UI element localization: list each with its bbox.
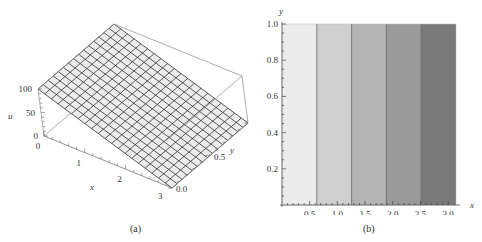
y-tick-label: 1.0 (267, 19, 279, 29)
x-tick-label: 3.0 (443, 209, 455, 215)
u-axis-label: u (8, 111, 13, 121)
x-tick-label: 3 (158, 191, 163, 201)
surface-mesh (38, 24, 248, 188)
u-tick-label: 100 (19, 84, 33, 94)
contour-plot: 0.51.01.52.02.53.00.20.40.60.81.0xy (250, 0, 482, 215)
y-tick-label: 0.4 (267, 128, 279, 138)
x-tick-label: 2.0 (387, 209, 399, 215)
y-tick-label: 0.6 (267, 91, 279, 101)
contour-band (352, 24, 387, 205)
x-tick-label: 1.0 (332, 209, 344, 215)
y-tick-label: 0.0 (176, 184, 188, 194)
x-tick-label: 0 (36, 141, 41, 151)
x-tick-label: 2.5 (415, 209, 427, 215)
contour-bands (282, 24, 456, 205)
y-axis-label: y (229, 145, 234, 155)
panel-a-caption: (a) (130, 223, 141, 234)
contour-band (282, 24, 317, 205)
x-tick-label: 0.5 (304, 209, 316, 215)
x-axis-label: x (89, 182, 94, 192)
y-tick-label: 0.5 (214, 152, 226, 162)
u-tick-label: 0 (34, 131, 39, 141)
panel-b-caption: (b) (363, 223, 375, 234)
y-axis-label: y (278, 6, 283, 16)
surface-plot: 01230501000.00.51.0xyu (0, 0, 250, 215)
u-tick-label: 50 (26, 108, 36, 118)
x-tick-label: 1 (76, 158, 81, 168)
contour-band (421, 24, 456, 205)
x-axis-label: x (469, 200, 474, 210)
contour-band (317, 24, 352, 205)
y-tick-label: 0.8 (267, 55, 279, 65)
x-tick-label: 1.5 (359, 209, 371, 215)
y-tick-label: 0.2 (267, 164, 278, 174)
contour-band (386, 24, 421, 205)
x-tick-label: 2 (117, 174, 122, 184)
